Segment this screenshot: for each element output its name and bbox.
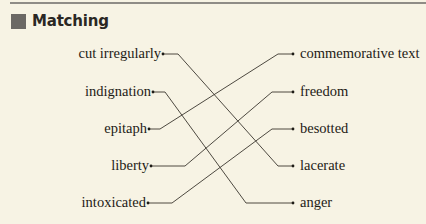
right-item-freedom: freedom	[300, 83, 348, 99]
left-dot	[148, 128, 151, 131]
right-item-commemorative-text: commemorative text	[300, 45, 420, 61]
left-dot	[152, 91, 155, 94]
right-item-anger: anger	[300, 194, 332, 210]
left-item-epitaph: epitaph	[104, 120, 147, 136]
right-item-lacerate: lacerate	[300, 157, 345, 173]
left-item-intoxicated: intoxicated	[82, 194, 146, 210]
match-line-epitaph-commemorative-text	[149, 54, 292, 129]
right-dot	[292, 202, 295, 205]
right-item-besotted: besotted	[300, 120, 348, 136]
right-dot	[292, 165, 295, 168]
left-item-cut-irregularly: cut irregularly	[78, 45, 161, 61]
match-line-cut-irregularly-lacerate	[163, 54, 292, 166]
left-dot	[162, 53, 165, 56]
right-dot	[292, 53, 295, 56]
right-dot	[292, 128, 295, 131]
match-line-indignation-anger	[153, 92, 292, 203]
matching-lines	[0, 0, 426, 224]
left-dot	[150, 165, 153, 168]
left-dot	[147, 202, 150, 205]
left-item-liberty: liberty	[111, 157, 149, 173]
left-item-indignation: indignation	[85, 83, 151, 99]
right-dot	[292, 91, 295, 94]
